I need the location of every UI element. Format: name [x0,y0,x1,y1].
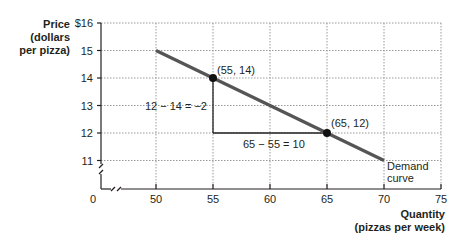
point-label-65-12: (65, 12) [331,117,369,129]
demand-chart: $16 15 14 13 12 11 0 50 55 60 65 70 75 P… [0,0,466,242]
y-axis-title-line: Price [43,18,70,30]
y-tick: 15 [81,45,93,57]
y-tick: 13 [81,100,93,112]
point-65-12 [323,129,331,137]
y-tick-labels: $16 15 14 13 12 11 [75,17,93,167]
demand-curve-label: curve [387,172,414,184]
x-tick: 0 [90,193,96,205]
x-axis-title: Quantity (pizzas per week) [355,208,446,233]
x-tick-labels: 0 50 55 60 65 70 75 [90,193,447,205]
x-tick: 70 [378,193,390,205]
y-tick: 12 [81,127,93,139]
x-tick: 55 [207,193,219,205]
x-tick: 65 [321,193,333,205]
y-tick: 11 [82,155,93,167]
x-tick: 60 [264,193,276,205]
x-axis-title-line: (pizzas per week) [355,221,446,233]
x-tick: 75 [435,193,447,205]
run-annotation: 65 − 55 = 10 [243,138,305,150]
x-axis-title-line: Quantity [400,208,445,220]
x-tick: 50 [150,193,162,205]
rise-annotation: 12 − 14 = −2 [145,100,207,112]
demand-curve-label: Demand [387,160,429,172]
y-axis-title: Price (dollars per pizza) [19,18,70,56]
y-tick: $16 [75,17,93,29]
point-55-14 [209,74,217,82]
y-axis-title-line: per pizza) [19,44,70,56]
point-label-55-14: (55, 14) [217,64,255,76]
y-tick: 14 [81,72,93,84]
y-axis-title-line: (dollars [30,31,70,43]
